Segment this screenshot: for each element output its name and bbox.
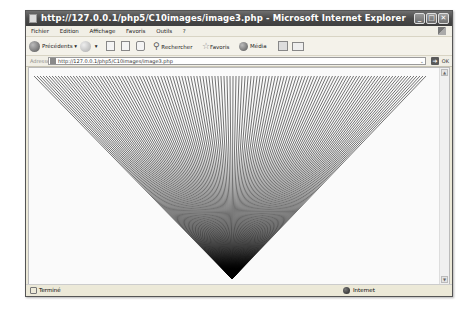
globe-icon xyxy=(343,287,350,294)
title-bar[interactable]: http://127.0.0.1/php5/C10images/image3.p… xyxy=(26,11,452,26)
menu-help[interactable]: ? xyxy=(183,28,186,34)
menu-edition[interactable]: Edition xyxy=(60,28,79,34)
search-button[interactable]: ⚲ Rechercher xyxy=(153,39,193,53)
forward-arrow-icon xyxy=(80,41,91,52)
line-fan-triangle-image xyxy=(29,68,442,284)
back-label: Précédents xyxy=(42,43,73,49)
go-button[interactable]: OK xyxy=(442,56,449,66)
page-content: ▲ ▼ xyxy=(28,67,450,285)
home-button[interactable] xyxy=(136,39,145,53)
menu-bar: Fichier Edition Affichage Favoris Outils… xyxy=(26,26,452,37)
ie-page-icon xyxy=(29,14,37,23)
menu-favoris[interactable]: Favoris xyxy=(126,28,145,34)
search-icon: ⚲ xyxy=(153,41,160,51)
window-title: http://127.0.0.1/php5/C10images/image3.p… xyxy=(41,11,406,26)
page-done-icon xyxy=(30,287,37,294)
refresh-button[interactable] xyxy=(121,39,130,53)
menu-affichage[interactable]: Affichage xyxy=(90,28,116,34)
maximize-button[interactable]: □ xyxy=(426,13,437,24)
search-label: Rechercher xyxy=(161,44,192,50)
url-input[interactable]: http://127.0.0.1/php5/C10images/image3.p… xyxy=(48,57,426,65)
media-button[interactable]: Média xyxy=(239,39,267,53)
menu-outils[interactable]: Outils xyxy=(156,28,172,34)
go-arrow-icon[interactable]: ➔ xyxy=(431,57,439,65)
close-button[interactable]: ✕ xyxy=(438,13,449,24)
refresh-icon xyxy=(121,41,130,51)
home-icon xyxy=(136,41,145,51)
back-arrow-icon xyxy=(29,41,40,52)
stop-button[interactable] xyxy=(106,39,115,53)
page-icon xyxy=(50,58,56,64)
chevron-down-icon[interactable]: ⌄ xyxy=(420,58,424,65)
mail-icon xyxy=(278,41,288,51)
favorites-button[interactable]: ☆Favoris xyxy=(202,39,229,53)
star-icon: ☆ xyxy=(202,41,210,51)
media-label: Média xyxy=(250,43,267,49)
media-icon xyxy=(239,42,248,51)
stop-icon xyxy=(106,41,115,51)
forward-button[interactable]: ▾ xyxy=(80,39,98,53)
address-bar: Adresse http://127.0.0.1/php5/C10images/… xyxy=(26,56,452,67)
back-button[interactable]: Précédents ▾ xyxy=(29,39,77,53)
address-label: Adresse xyxy=(30,56,50,66)
print-button[interactable] xyxy=(292,39,304,53)
favorites-label: Favoris xyxy=(210,44,229,50)
vertical-scrollbar[interactable]: ▲ ▼ xyxy=(439,68,449,284)
mail-button[interactable] xyxy=(278,39,288,53)
status-bar: Terminé Internet xyxy=(26,284,452,296)
print-icon xyxy=(292,42,304,51)
browser-window: http://127.0.0.1/php5/C10images/image3.p… xyxy=(25,10,453,297)
menu-fichier[interactable]: Fichier xyxy=(31,28,49,34)
scroll-up-button[interactable]: ▲ xyxy=(441,69,448,76)
security-zone: Internet xyxy=(343,285,375,296)
windows-logo-icon xyxy=(438,27,446,35)
minimize-button[interactable]: _ xyxy=(414,13,425,24)
url-text: http://127.0.0.1/php5/C10images/image3.p… xyxy=(58,58,173,64)
scroll-down-button[interactable]: ▼ xyxy=(441,276,448,283)
status-text: Terminé xyxy=(39,287,61,293)
zone-text: Internet xyxy=(353,287,375,293)
toolbar: Précédents ▾ ▾ ⚲ Rechercher ☆Favoris Méd… xyxy=(26,37,452,56)
